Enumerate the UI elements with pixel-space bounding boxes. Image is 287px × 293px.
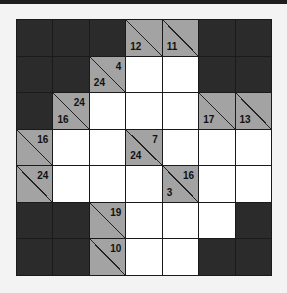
right-clue-sum: 19: [110, 208, 121, 218]
entry-cell[interactable]: [90, 93, 125, 129]
blocked-cell: [17, 203, 52, 239]
kakuro-board: 12114242416171316724241631910: [16, 19, 272, 276]
down-clue-sum: 16: [57, 115, 68, 125]
entry-cell[interactable]: [126, 93, 161, 129]
down-clue-sum: 3: [167, 188, 173, 198]
blocked-cell: [53, 20, 88, 56]
entry-cell[interactable]: [126, 166, 161, 202]
blocked-cell: [199, 20, 234, 56]
clue-cell: 724: [126, 130, 161, 166]
right-clue-sum: 16: [37, 135, 48, 145]
blocked-cell: [17, 20, 52, 56]
entry-cell[interactable]: [163, 93, 198, 129]
clue-cell: 13: [236, 93, 271, 129]
blocked-cell: [236, 239, 271, 275]
down-clue-sum: 11: [167, 42, 178, 52]
right-clue-sum: 16: [183, 171, 194, 181]
clue-cell: 163: [163, 166, 198, 202]
entry-cell[interactable]: [163, 239, 198, 275]
clue-cell: 10: [90, 239, 125, 275]
entry-cell[interactable]: [126, 203, 161, 239]
blocked-cell: [17, 93, 52, 129]
clue-cell: 24: [17, 166, 52, 202]
right-clue-sum: 24: [37, 171, 48, 181]
blocked-cell: [199, 57, 234, 93]
blocked-cell: [17, 57, 52, 93]
down-clue-sum: 24: [94, 78, 105, 88]
blocked-cell: [236, 20, 271, 56]
down-clue-sum: 17: [203, 115, 214, 125]
entry-cell[interactable]: [199, 203, 234, 239]
entry-cell[interactable]: [90, 130, 125, 166]
right-clue-sum: 4: [116, 62, 122, 72]
entry-cell[interactable]: [236, 166, 271, 202]
entry-cell[interactable]: [126, 239, 161, 275]
blocked-cell: [90, 20, 125, 56]
right-clue-sum: 24: [74, 98, 85, 108]
entry-cell[interactable]: [236, 130, 271, 166]
blocked-cell: [17, 239, 52, 275]
blocked-cell: [236, 57, 271, 93]
entry-cell[interactable]: [53, 166, 88, 202]
down-clue-sum: 13: [240, 115, 251, 125]
top-bar: [0, 0, 287, 4]
right-clue-sum: 10: [110, 244, 121, 254]
entry-cell[interactable]: [163, 203, 198, 239]
clue-cell: 2416: [53, 93, 88, 129]
blocked-cell: [53, 57, 88, 93]
clue-cell: 17: [199, 93, 234, 129]
blocked-cell: [53, 239, 88, 275]
entry-cell[interactable]: [163, 57, 198, 93]
down-clue-sum: 24: [130, 151, 141, 161]
entry-cell[interactable]: [199, 130, 234, 166]
right-clue-sum: 7: [152, 135, 158, 145]
clue-cell: 424: [90, 57, 125, 93]
clue-cell: 12: [126, 20, 161, 56]
clue-cell: 16: [17, 130, 52, 166]
entry-cell[interactable]: [163, 130, 198, 166]
blocked-cell: [199, 239, 234, 275]
blocked-cell: [236, 203, 271, 239]
clue-cell: 11: [163, 20, 198, 56]
clue-cell: 19: [90, 203, 125, 239]
entry-cell[interactable]: [53, 130, 88, 166]
entry-cell[interactable]: [199, 166, 234, 202]
entry-cell[interactable]: [126, 57, 161, 93]
entry-cell[interactable]: [90, 166, 125, 202]
blocked-cell: [53, 203, 88, 239]
down-clue-sum: 12: [130, 42, 141, 52]
